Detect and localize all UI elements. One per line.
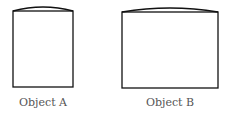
object-b-shape	[122, 8, 218, 88]
object-b-label: Object B	[122, 96, 218, 109]
object-a-label: Object A	[13, 96, 73, 109]
object-a-shape	[13, 7, 73, 87]
